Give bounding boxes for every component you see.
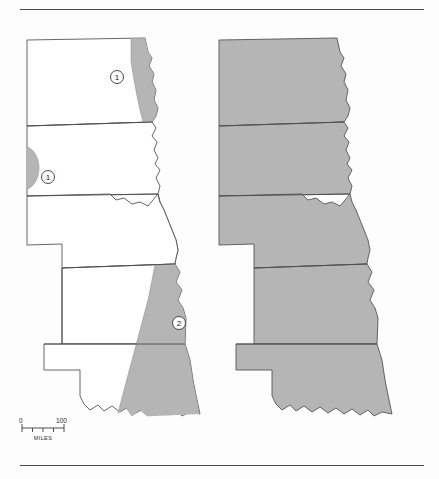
left-state-nebraska — [27, 194, 178, 268]
callout-1-west-label: 1 — [46, 173, 51, 182]
right-state-south-dakota — [219, 122, 352, 196]
callout-1-north[interactable]: 1 — [111, 71, 124, 84]
figure-container: 1 1 2 — [0, 0, 439, 479]
right-state-north-dakota — [219, 38, 350, 126]
callout-1-west[interactable]: 1 — [42, 171, 55, 184]
left-state-south-dakota — [27, 122, 160, 196]
map-figure: 1 1 2 — [0, 0, 439, 479]
scale-bar: 0 100 MILES — [19, 417, 67, 441]
callout-2-southeast-label: 2 — [177, 319, 182, 328]
callout-2-southeast[interactable]: 2 — [173, 317, 186, 330]
right-state-nebraska — [219, 194, 370, 268]
left-shade-south-dakota — [7, 146, 39, 190]
scale-unit-label: MILES — [34, 435, 53, 441]
right-state-kansas — [254, 264, 378, 344]
left-map-panel: 1 1 2 — [7, 38, 200, 418]
scale-start-label: 0 — [19, 417, 23, 424]
callout-1-north-label: 1 — [115, 73, 120, 82]
right-state-oklahoma — [236, 344, 392, 416]
right-map-panel — [219, 38, 392, 416]
scale-end-label: 100 — [56, 417, 67, 424]
